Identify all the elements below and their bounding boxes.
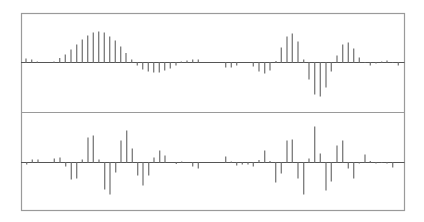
chart-frame: [21, 14, 405, 211]
stem-chart-figure: [0, 0, 424, 222]
chart-canvas: [0, 0, 424, 222]
top-panel-stems: [21, 32, 405, 97]
bottom-panel-stems: [21, 127, 405, 195]
